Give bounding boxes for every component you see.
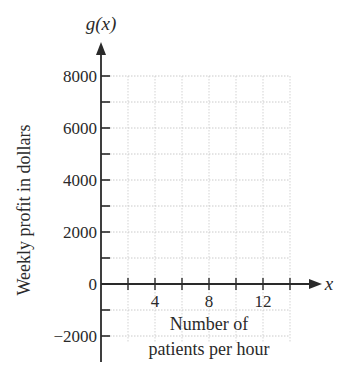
- y-tick-label: 2000: [63, 223, 97, 242]
- y-axis-title: Weekly profit in dollars: [14, 124, 34, 295]
- x-tick-label: 12: [255, 292, 272, 311]
- y-variable-label: g(x): [86, 13, 117, 35]
- x-tick-label: 8: [205, 292, 214, 311]
- x-ticks: 4812: [128, 278, 290, 311]
- x-axis-title-line2: patients per hour: [149, 339, 270, 359]
- chart: −200002000400060008000 4812 g(x) x Weekl…: [0, 0, 350, 366]
- y-tick-label: 6000: [63, 119, 97, 138]
- y-tick-label: −2000: [53, 327, 97, 346]
- y-axis-arrow-icon: [96, 42, 106, 55]
- y-tick-label: 4000: [63, 171, 97, 190]
- x-variable-label: x: [324, 273, 334, 294]
- x-axis-title-line1: Number of: [170, 314, 248, 334]
- x-tick-label: 4: [151, 292, 160, 311]
- y-tick-label: 8000: [63, 67, 97, 86]
- x-axis-arrow-icon: [309, 279, 322, 289]
- y-tick-label: 0: [89, 275, 98, 294]
